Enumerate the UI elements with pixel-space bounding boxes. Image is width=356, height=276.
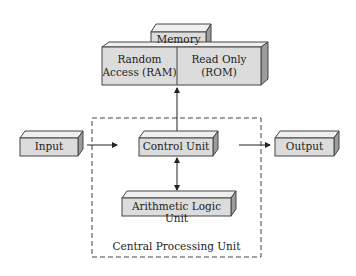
- memory-title: Memory: [151, 33, 206, 45]
- alu-box: Arithmetic Logic Unit: [122, 200, 231, 224]
- cpu-label: Central Processing Unit: [92, 240, 261, 252]
- rom-label: Read Only (ROM): [177, 53, 261, 79]
- ram-label: Random Access (RAM): [102, 53, 177, 79]
- ram-line2: Access (RAM): [102, 66, 177, 79]
- control-unit-box: Control Unit: [139, 140, 213, 152]
- rom-line1: Read Only: [177, 53, 261, 66]
- output-box: Output: [275, 140, 334, 152]
- rom-line2: (ROM): [177, 66, 261, 79]
- ram-line1: Random: [102, 53, 177, 66]
- input-box: Input: [20, 140, 78, 152]
